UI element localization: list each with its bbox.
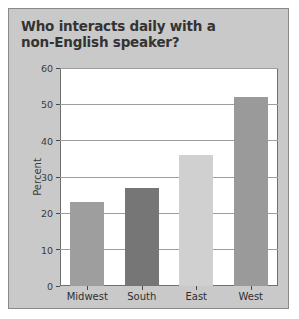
chart-title: Who interacts daily with a non-English s… xyxy=(21,19,271,50)
x-tick-label: South xyxy=(127,291,156,302)
y-tick-label: 20 xyxy=(41,208,53,219)
gridline xyxy=(60,68,278,69)
y-tick-mark xyxy=(56,177,60,178)
x-tick-mark xyxy=(87,286,88,290)
y-tick-mark xyxy=(56,249,60,250)
x-tick-label: East xyxy=(185,291,207,302)
y-tick-label: 60 xyxy=(41,63,53,74)
y-tick-label: 10 xyxy=(41,244,53,255)
y-tick-mark xyxy=(56,104,60,105)
bar xyxy=(125,188,159,286)
y-tick-label: 40 xyxy=(41,135,53,146)
chart-figure: Who interacts daily with a non-English s… xyxy=(8,8,289,309)
bar xyxy=(179,155,213,286)
chart-title-line-1: Who interacts daily with a xyxy=(21,19,271,35)
bar xyxy=(70,202,104,286)
y-tick-label: 50 xyxy=(41,99,53,110)
x-tick-mark xyxy=(251,286,252,290)
x-tick-mark xyxy=(142,286,143,290)
x-tick-label: Midwest xyxy=(67,291,108,302)
y-tick-mark xyxy=(56,68,60,69)
x-tick-label: West xyxy=(238,291,263,302)
y-tick-mark xyxy=(56,140,60,141)
y-tick-label: 30 xyxy=(41,172,53,183)
y-tick-mark xyxy=(56,286,60,287)
y-tick-label: 0 xyxy=(47,281,53,292)
y-tick-mark xyxy=(56,213,60,214)
chart-title-line-2: non-English speaker? xyxy=(21,35,271,51)
plot-wrapper: Percent 0102030405060 MidwestSouthEastWe… xyxy=(60,68,278,286)
bar xyxy=(234,97,268,286)
x-tick-mark xyxy=(196,286,197,290)
